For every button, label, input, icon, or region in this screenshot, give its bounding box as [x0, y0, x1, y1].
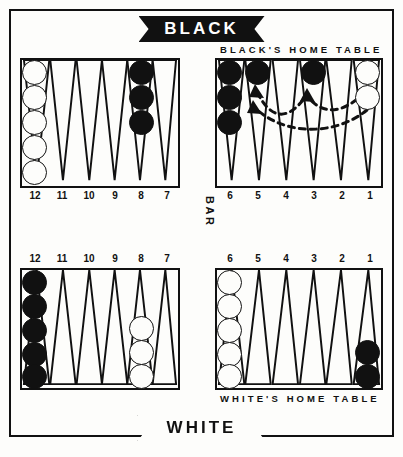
checker-white	[22, 85, 47, 110]
point-number: 3	[305, 253, 323, 264]
checker-white	[355, 85, 380, 110]
checker-black	[217, 110, 242, 135]
checker-white	[217, 318, 242, 343]
checker-white	[22, 60, 47, 85]
bar-label: BAR	[188, 196, 216, 227]
point-number: 8	[132, 253, 150, 264]
checker-black	[355, 340, 380, 365]
point-number: 12	[26, 253, 44, 264]
checker-black	[22, 294, 47, 319]
point-number: 9	[106, 253, 124, 264]
point-number: 7	[158, 253, 176, 264]
checker-black	[355, 364, 380, 389]
checker-black	[217, 60, 242, 85]
point-number: 8	[132, 190, 150, 201]
point-number: 2	[333, 190, 351, 201]
checker-black	[129, 110, 154, 135]
checker-black	[245, 60, 270, 85]
banner-white: WHITE	[138, 415, 266, 441]
point-number: 6	[221, 190, 239, 201]
point-number: 9	[106, 190, 124, 201]
checker-white	[217, 294, 242, 319]
point-number: 5	[249, 190, 267, 201]
checker-white	[22, 110, 47, 135]
checker-white	[129, 340, 154, 365]
point-number: 10	[80, 253, 98, 264]
point-number: 3	[305, 190, 323, 201]
point-number: 1	[361, 253, 379, 264]
point-number: 7	[158, 190, 176, 201]
checker-black	[22, 364, 47, 389]
checker-white	[217, 364, 242, 389]
point-number: 2	[333, 253, 351, 264]
checker-white	[217, 270, 242, 295]
checker-black	[217, 85, 242, 110]
checker-black	[22, 270, 47, 295]
checker-black	[129, 85, 154, 110]
point-number: 6	[221, 253, 239, 264]
checker-white	[355, 60, 380, 85]
black-home-table-label: BLACK'S HOME TABLE	[220, 44, 382, 55]
checker-white	[129, 364, 154, 389]
checker-black	[301, 60, 326, 85]
backgammon-diagram: BLACK WHITE BLACK'S HOME TABLE WHITE'S H…	[0, 0, 403, 457]
point-number: 4	[277, 190, 295, 201]
point-number: 5	[249, 253, 267, 264]
checker-black	[22, 318, 47, 343]
banner-black: BLACK	[139, 16, 265, 42]
point-number: 11	[53, 190, 71, 201]
white-home-table-label: WHITE'S HOME TABLE	[220, 393, 380, 404]
point-number: 12	[26, 190, 44, 201]
checker-white	[22, 135, 47, 160]
point-number: 10	[80, 190, 98, 201]
checker-white	[129, 316, 154, 341]
checker-white	[22, 160, 47, 185]
checker-black	[129, 60, 154, 85]
point-number: 4	[277, 253, 295, 264]
point-number: 1	[361, 190, 379, 201]
point-number: 11	[53, 253, 71, 264]
